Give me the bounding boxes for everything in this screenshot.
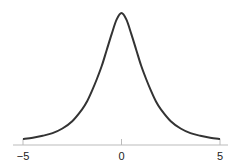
x-tick-label: 0 [118, 150, 124, 162]
density-plot: −505 [0, 0, 238, 167]
density-curve [23, 13, 220, 139]
x-axis-tick-labels: −505 [17, 150, 223, 162]
x-axis-ticks [23, 139, 220, 145]
x-tick-label: −5 [17, 150, 30, 162]
x-tick-label: 5 [217, 150, 223, 162]
